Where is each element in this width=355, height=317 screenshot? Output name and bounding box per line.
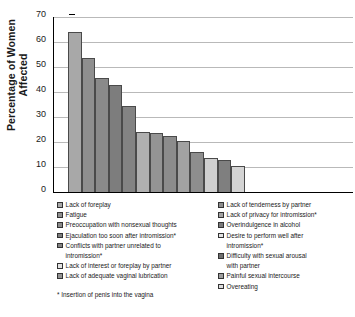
y-axis-tick-labels: 010203040506070 (22, 14, 46, 190)
legend-item-label: Difficulty with sexual arousal (227, 252, 355, 261)
legend: Lack of foreplayFatiguePreoccupation wit… (57, 201, 355, 317)
legend-item-left-2[interactable]: Fatigue (57, 211, 207, 220)
legend-swatch-icon (218, 212, 224, 218)
legend-item-right-5[interactable]: Difficulty with sexual arousal (218, 252, 355, 261)
legend-swatch-icon (57, 212, 63, 218)
legend-item-label: Preoccupation with nonsexual thoughts (66, 221, 207, 230)
y-tick-label-50: 50 (22, 60, 46, 69)
legend-item-left-5[interactable]: Conflicts with partner unrelated to (57, 242, 207, 251)
legend-item-left-7[interactable]: Lack of adequate vaginal lubrication (57, 272, 207, 281)
legend-item-label: Overindulgence in alcohol (227, 221, 355, 230)
legend-item-left-1[interactable]: Lack of foreplay (57, 201, 207, 210)
legend-column-right: Lack of tenderness by partnerLack of pri… (218, 201, 355, 293)
y-tick-label-10: 10 (22, 160, 46, 169)
legend-item-left-6[interactable]: Lack of interest or foreplay by partner (57, 262, 207, 271)
legend-item-label: Fatigue (66, 211, 207, 220)
legend-item-label: Lack of adequate vaginal lubrication (66, 272, 207, 281)
bar-11 (204, 158, 218, 192)
legend-swatch-icon (218, 222, 224, 228)
bar-1 (68, 32, 82, 192)
bar-5 (122, 106, 136, 192)
legend-item-label: Ejaculation too soon after intromission* (66, 232, 207, 241)
y-tick-label-60: 60 (22, 35, 46, 44)
legend-swatch-icon (218, 253, 224, 259)
legend-swatch-icon (218, 202, 224, 208)
legend-item-right-7[interactable]: Overeating (218, 283, 355, 292)
legend-item-label: Lack of interest or foreplay by partner (66, 262, 207, 271)
bar-3 (95, 78, 109, 192)
legend-swatch-icon (218, 284, 224, 290)
legend-item-left-4[interactable]: Ejaculation too soon after intromission* (57, 232, 207, 241)
x-axis-line (53, 192, 353, 193)
bar-6 (136, 132, 150, 192)
legend-item-label: Lack of foreplay (66, 201, 207, 210)
legend-swatch-icon (57, 273, 63, 279)
legend-swatch-icon (57, 233, 63, 239)
legend-swatch-icon (218, 233, 224, 239)
y-tick-label-20: 20 (22, 135, 46, 144)
legend-item-right-6[interactable]: Painful sexual intercourse (218, 272, 355, 281)
bar-2 (82, 58, 96, 192)
legend-item-label: Lack of privacy for intromission* (227, 211, 355, 220)
legend-swatch-icon (57, 202, 63, 208)
legend-swatch-icon (218, 273, 224, 279)
legend-item-label-continued: with partner (218, 262, 355, 271)
legend-item-label: Conflicts with partner unrelated to (66, 242, 207, 251)
bar-4 (109, 85, 123, 193)
legend-item-label: Lack of tenderness by partner (227, 201, 355, 210)
legend-swatch-icon (57, 243, 63, 249)
y-tick-mark-70 (69, 14, 75, 15)
bar-13 (231, 166, 245, 192)
legend-footnote: * Insertion of penis into the vagina (57, 291, 217, 300)
bar-12 (218, 160, 232, 193)
legend-item-label: Painful sexual intercourse (227, 272, 355, 281)
legend-swatch-icon (57, 222, 63, 228)
legend-item-label-continued: intromission* (218, 242, 355, 251)
bar-10 (190, 152, 204, 192)
chart-figure: Percentage of Women Affected 01020304050… (0, 0, 355, 317)
y-axis-line (53, 17, 54, 192)
bar-8 (163, 136, 177, 192)
legend-item-label: Overeating (227, 283, 355, 292)
legend-swatch-icon (57, 263, 63, 269)
y-tick-label-40: 40 (22, 85, 46, 94)
y-tick-label-70: 70 (22, 10, 46, 19)
legend-item-label-continued: intromission* (57, 252, 207, 261)
bar-9 (177, 141, 191, 192)
legend-item-left-3[interactable]: Preoccupation with nonsexual thoughts (57, 221, 207, 230)
bar-series (68, 17, 248, 192)
legend-item-label: Desire to perform well after (227, 232, 355, 241)
legend-item-right-3[interactable]: Overindulgence in alcohol (218, 221, 355, 230)
legend-item-right-2[interactable]: Lack of privacy for intromission* (218, 211, 355, 220)
legend-item-right-1[interactable]: Lack of tenderness by partner (218, 201, 355, 210)
bar-7 (150, 133, 164, 192)
legend-column-left: Lack of foreplayFatiguePreoccupation wit… (57, 201, 207, 283)
y-tick-label-30: 30 (22, 110, 46, 119)
legend-item-right-4[interactable]: Desire to perform well after (218, 232, 355, 241)
plot-area: Percentage of Women Affected 01020304050… (0, 0, 355, 200)
y-tick-label-0: 0 (22, 185, 46, 194)
